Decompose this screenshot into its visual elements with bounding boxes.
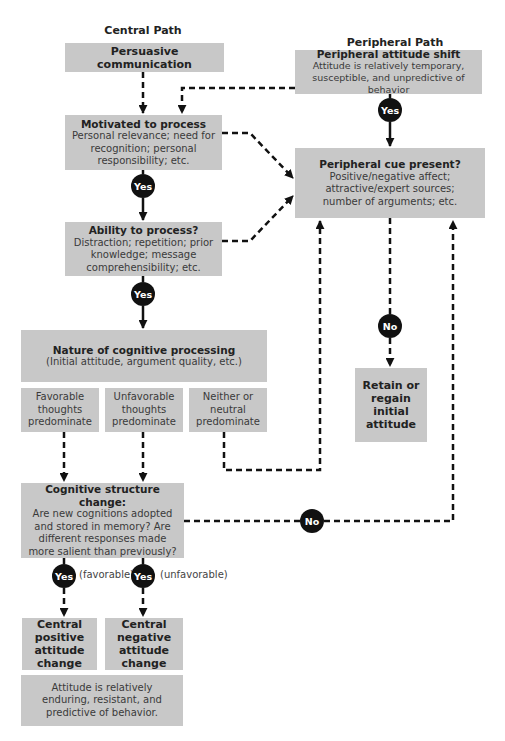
- ability-desc: Distraction; repetition; prior knowledge…: [69, 237, 218, 275]
- yes-label: Yes: [134, 289, 152, 300]
- persuasive-communication-label: Persuasive communication: [69, 45, 220, 71]
- peripheral-cue-box: Peripheral cue present? Positive/negativ…: [295, 148, 485, 218]
- neutral-thoughts-label: Neither or neutral predominate: [193, 391, 263, 429]
- enduring-label: Attitude is relatively enduring, resista…: [31, 682, 173, 720]
- motivated-title: Motivated to process: [81, 118, 206, 131]
- neutral-thoughts-box: Neither or neutral predominate: [189, 388, 267, 432]
- no-decision-structure: No: [300, 509, 324, 533]
- yes-label: Yes: [134, 571, 152, 582]
- nature-of-processing-box: Nature of cognitive processing (Initial …: [21, 330, 267, 382]
- central-path-header: Central Path: [90, 24, 196, 37]
- central-negative-label: Central negative attitude change: [109, 618, 179, 670]
- yes-decision-peripheral: Yes: [378, 98, 402, 122]
- nature-title: Nature of cognitive processing: [53, 344, 235, 357]
- yes-label: Yes: [55, 571, 73, 582]
- central-positive-label: Central positive attitude change: [26, 618, 93, 670]
- yes-decision-ability: Yes: [131, 282, 155, 306]
- retain-initial-attitude-box: Retain or regain initial attitude: [355, 368, 427, 442]
- peripheral-cue-desc: Positive/negative affect; attractive/exp…: [309, 171, 471, 209]
- central-negative-change-box: Central negative attitude change: [105, 618, 183, 670]
- yes-label: Yes: [381, 105, 399, 116]
- unfavorable-thoughts-box: Unfavorable thoughts predominate: [105, 388, 183, 432]
- peripheral-shift-title: Peripheral attitude shift: [317, 48, 461, 60]
- enduring-attitude-box: Attitude is relatively enduring, resista…: [21, 675, 183, 726]
- ability-title: Ability to process?: [89, 224, 199, 237]
- structure-change-title: Cognitive structure change:: [25, 483, 180, 508]
- yes-decision-favorable: Yes: [52, 564, 76, 588]
- yes-label: Yes: [134, 181, 152, 192]
- favorable-thoughts-label: Favorable thoughts predominate: [25, 391, 95, 429]
- cognitive-structure-change-box: Cognitive structure change: Are new cogn…: [21, 483, 184, 558]
- yes-decision-unfavorable: Yes: [131, 564, 155, 588]
- persuasive-communication-box: Persuasive communication: [65, 43, 224, 72]
- no-decision-cue: No: [378, 314, 402, 338]
- yes-decision-motivated: Yes: [131, 174, 155, 198]
- peripheral-cue-title: Peripheral cue present?: [319, 158, 460, 171]
- unfavorable-note: (unfavorable): [160, 569, 228, 580]
- nature-desc: (Initial attitude, argument quality, etc…: [46, 356, 242, 369]
- motivated-to-process-box: Motivated to process Personal relevance;…: [65, 115, 222, 170]
- favorable-thoughts-box: Favorable thoughts predominate: [21, 388, 99, 432]
- ability-to-process-box: Ability to process? Distraction; repetit…: [65, 222, 222, 276]
- no-label: No: [305, 516, 319, 527]
- peripheral-attitude-shift-box: Peripheral attitude shift Attitude is re…: [295, 50, 482, 94]
- central-positive-change-box: Central positive attitude change: [22, 618, 97, 670]
- structure-change-desc: Are new cognitions adopted and stored in…: [25, 508, 180, 558]
- unfavorable-thoughts-label: Unfavorable thoughts predominate: [109, 391, 179, 429]
- retain-label: Retain or regain initial attitude: [359, 379, 423, 431]
- motivated-desc: Personal relevance; need for recognition…: [69, 130, 218, 168]
- peripheral-shift-desc: Attitude is relatively temporary, suscep…: [299, 60, 478, 96]
- no-label: No: [383, 321, 397, 332]
- favorable-note: (favorable): [79, 569, 134, 580]
